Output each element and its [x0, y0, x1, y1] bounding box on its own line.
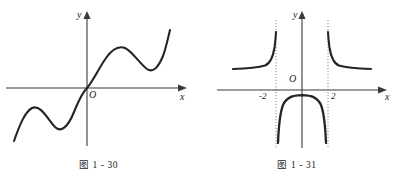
- x-axis-label-fig-1-30: x: [180, 92, 184, 102]
- plot-area-fig-1-30: [0, 0, 197, 155]
- y-axis-fig-1-31: [298, 11, 305, 148]
- y-axis-label-fig-1-31: y: [293, 10, 297, 20]
- figure-sheet: y x O 图 1 - 30: [0, 0, 397, 179]
- caption-fig-1-30: 图 1 - 30: [0, 157, 197, 171]
- caption-fig-1-31: 图 1 - 31: [197, 157, 397, 171]
- x-tick-label-positive-2: 2: [331, 92, 336, 101]
- y-axis-fig-1-30: [83, 11, 90, 146]
- figure-1-31: y x O -2 2 图 1 - 31: [197, 0, 397, 179]
- origin-label-fig-1-30: O: [89, 90, 96, 100]
- y-axis-label-fig-1-30: y: [77, 10, 81, 20]
- branch-right-outer-fig-1-31: [328, 32, 371, 69]
- origin-label-fig-1-31: O: [289, 74, 296, 84]
- x-axis-fig-1-30: [6, 84, 187, 91]
- figure-1-30: y x O 图 1 - 30: [0, 0, 197, 179]
- plot-area-fig-1-31: [197, 0, 397, 155]
- curve-fig-1-30: [14, 30, 170, 141]
- x-tick-label-negative-2: -2: [259, 92, 267, 101]
- branch-left-outer-fig-1-31: [233, 32, 276, 69]
- x-axis-label-fig-1-31: x: [385, 92, 389, 102]
